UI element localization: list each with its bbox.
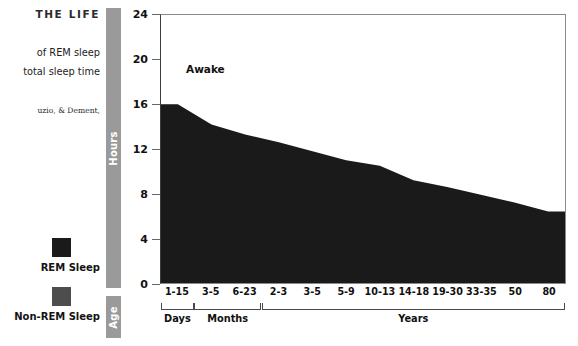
y-tick-mark-16	[152, 104, 160, 105]
x-tick-label-6-23: 6-23	[233, 286, 257, 297]
x-group-label-years: Years	[398, 313, 428, 324]
y-tick-mark-4	[152, 239, 160, 240]
x-group-label-days: Days	[164, 313, 191, 324]
y-tick-label-24: 24	[133, 8, 148, 21]
chart-plot-area	[160, 14, 566, 284]
x-tick-label-3-5: 3-5	[202, 286, 219, 297]
non-rem-sleep-swatch-icon	[52, 287, 71, 306]
x-group-bracket-days	[161, 303, 194, 310]
x-tick-label-19-30: 19-30	[432, 286, 463, 297]
figure-caption-line-2: total sleep time	[0, 66, 100, 77]
figure-text-column: THE LIFE of REM sleep total sleep time u…	[0, 0, 100, 346]
figure-source-citation: uzio, & Dement,	[0, 106, 100, 115]
rem-sleep-area	[161, 104, 565, 283]
age-axis-banner: Age	[106, 296, 121, 338]
y-tick-label-12: 12	[133, 143, 148, 156]
x-tick-label-2-3: 2-3	[270, 286, 287, 297]
chart-legend: REM Sleep Non-REM Sleep	[0, 238, 100, 336]
y-tick-label-16: 16	[133, 98, 148, 111]
y-axis: 04812162024	[126, 0, 160, 346]
awake-region-label: Awake	[186, 63, 225, 75]
age-axis-banner-label: Age	[108, 306, 119, 328]
x-tick-label-3-5: 3-5	[304, 286, 321, 297]
y-tick-mark-20	[152, 59, 160, 60]
y-tick-label-20: 20	[133, 53, 148, 66]
figure-caption-line-1: of REM sleep	[0, 47, 100, 58]
y-tick-mark-0	[152, 284, 160, 285]
hours-axis-banner: Hours	[106, 8, 121, 288]
x-tick-label-10-13: 10-13	[365, 286, 396, 297]
x-tick-label-33-35: 33-35	[466, 286, 497, 297]
x-tick-label-50: 50	[509, 286, 522, 297]
x-group-bracket-months	[194, 303, 262, 310]
legend-label-non-rem-sleep: Non-REM Sleep	[0, 311, 100, 322]
x-tick-label-5-9: 5-9	[337, 286, 354, 297]
y-tick-mark-12	[152, 149, 160, 150]
x-tick-label-14-18: 14-18	[398, 286, 429, 297]
x-tick-label-80: 80	[542, 286, 555, 297]
stacked-area-chart	[161, 15, 565, 283]
x-group-bracket-years	[262, 303, 566, 310]
x-tick-label-1-15: 1-15	[165, 286, 189, 297]
rem-sleep-swatch-icon	[52, 238, 71, 257]
legend-item-non-rem-sleep: Non-REM Sleep	[0, 287, 100, 322]
figure-heading: THE LIFE	[0, 8, 100, 20]
legend-item-rem-sleep: REM Sleep	[0, 238, 100, 273]
y-tick-mark-8	[152, 194, 160, 195]
y-tick-label-0: 0	[140, 278, 148, 291]
y-tick-label-8: 8	[140, 188, 148, 201]
legend-label-rem-sleep: REM Sleep	[0, 262, 100, 273]
x-axis: 1-153-56-232-33-55-910-1314-1819-3033-35…	[160, 286, 566, 346]
y-tick-mark-24	[152, 14, 160, 15]
x-group-label-months: Months	[207, 313, 248, 324]
hours-axis-banner-label: Hours	[108, 131, 119, 165]
y-tick-label-4: 4	[140, 233, 148, 246]
